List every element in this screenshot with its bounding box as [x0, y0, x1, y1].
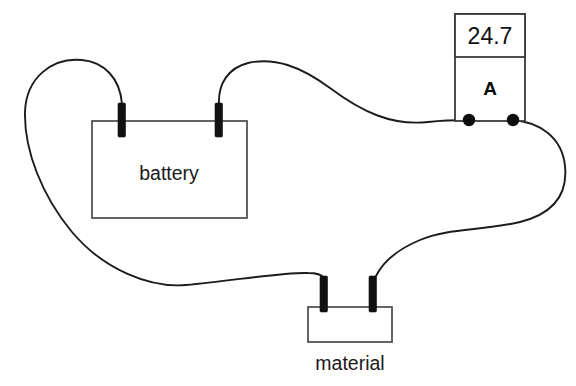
- circuit-diagram-svg: battery 24.7 A material: [0, 0, 576, 386]
- battery-terminal-right: [215, 103, 223, 137]
- ammeter-reading: 24.7: [468, 23, 513, 49]
- material-terminal-left: [320, 276, 328, 312]
- ammeter-symbol: A: [483, 78, 497, 99]
- material-label: material: [315, 352, 384, 374]
- material-terminal-right: [369, 276, 377, 312]
- ammeter-terminal-left: [463, 114, 475, 126]
- circuit-diagram-canvas: battery 24.7 A material: [0, 0, 576, 386]
- material-box: [308, 307, 392, 342]
- ammeter-terminal-right: [507, 114, 519, 126]
- wire-ammeter-right-to-material-right: [376, 120, 565, 276]
- battery-terminal-left: [118, 103, 126, 137]
- wire-battery-right-to-ammeter-left: [219, 61, 468, 122]
- battery-label: battery: [139, 162, 199, 184]
